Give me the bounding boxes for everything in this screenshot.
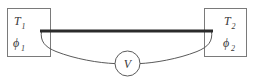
left-potential-label: ϕ bbox=[13, 36, 19, 50]
right-temperature-subscript: 2 bbox=[232, 22, 236, 31]
left-temperature-subscript: 1 bbox=[22, 22, 26, 31]
left-potential-subscript: 1 bbox=[21, 44, 25, 53]
right-lead-wire bbox=[140, 31, 212, 64]
left-lead-wire bbox=[41, 31, 115, 64]
right-potential-label: ϕ bbox=[223, 36, 229, 50]
right-potential-subscript: 2 bbox=[231, 44, 235, 53]
thermoelectric-circuit-diagram: V T 1 ϕ 1 T 2 ϕ 2 bbox=[0, 0, 255, 81]
